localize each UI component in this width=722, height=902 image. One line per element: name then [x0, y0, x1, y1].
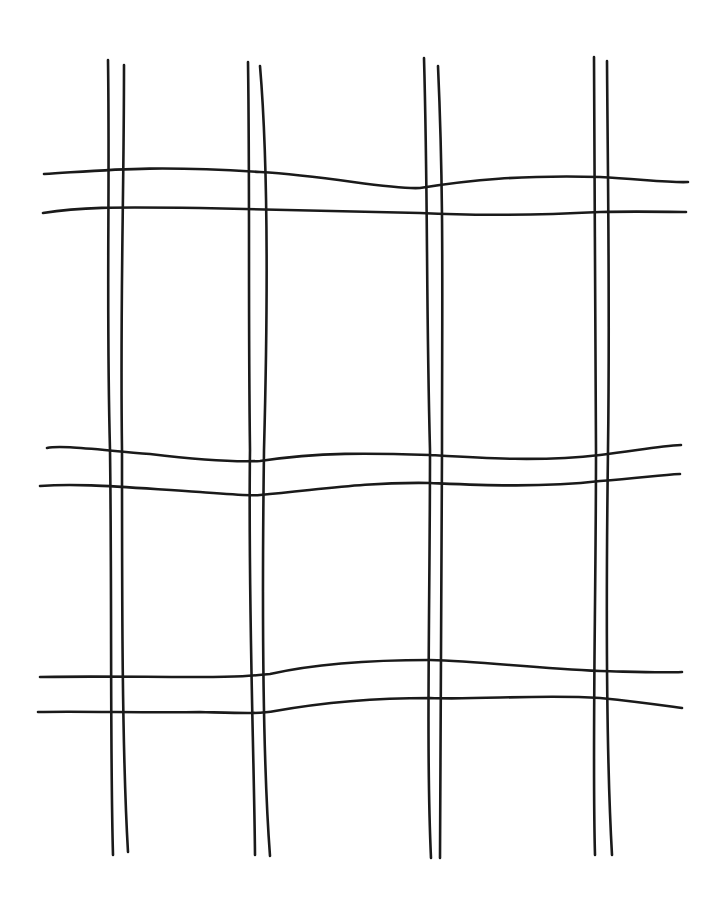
horizontal-lines — [38, 168, 688, 713]
vertical-line-8 — [607, 61, 612, 855]
horizontal-line-4 — [40, 474, 680, 495]
vertical-line-2 — [121, 65, 128, 852]
grid-drawing — [0, 0, 722, 902]
horizontal-line-2 — [43, 208, 686, 215]
horizontal-line-5 — [40, 660, 682, 677]
horizontal-line-1 — [44, 168, 688, 188]
horizontal-line-3 — [47, 445, 681, 461]
vertical-line-3 — [248, 62, 255, 855]
vertical-line-5 — [424, 58, 431, 858]
horizontal-line-6 — [38, 697, 682, 713]
vertical-line-1 — [108, 60, 113, 855]
